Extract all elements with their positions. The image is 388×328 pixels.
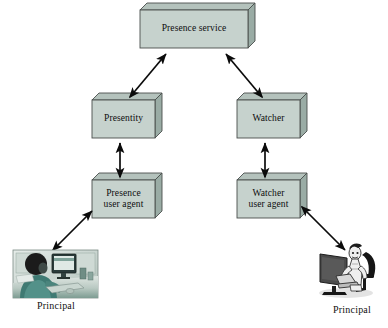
left-principal-label: Principal [26, 300, 86, 311]
right-principal-image [319, 244, 375, 298]
diagram-canvas: Presence service Presentity Watcher Pres… [0, 0, 388, 328]
node-watcher-user-agent[interactable] [237, 173, 307, 218]
left-principal-image [13, 250, 98, 298]
node-presence-service[interactable] [140, 3, 255, 48]
diagram-vector-layer [0, 0, 388, 328]
edge-presentity-to-presence-service [130, 54, 166, 97]
edge-watcher-user-agent-to-right-principal [302, 207, 345, 250]
node-presence-user-agent[interactable] [92, 173, 162, 218]
node-watcher[interactable] [237, 93, 307, 138]
node-presentity[interactable] [92, 93, 162, 138]
edge-watcher-to-presence-service [226, 54, 262, 97]
right-principal-label: Principal [322, 304, 382, 315]
edge-left-principal-to-presence-user-agent [53, 211, 92, 250]
